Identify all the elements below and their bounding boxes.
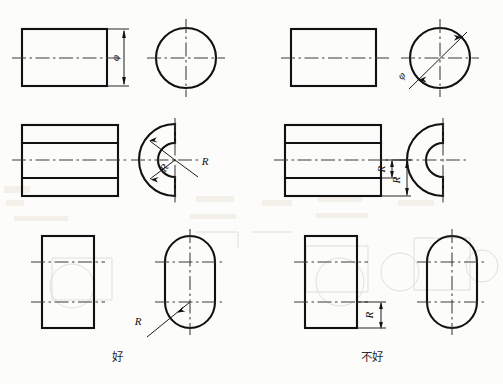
obround-bad-front-rect — [305, 236, 357, 328]
obround-good-radius-leader — [147, 302, 190, 337]
background-artifacts — [4, 186, 498, 308]
drawing-canvas: φ φ — [0, 0, 503, 384]
cylinder-good-diameter-label: φ — [109, 55, 121, 61]
row-obround-good: R — [31, 229, 225, 337]
cylinder-bad-diameter-label: φ — [395, 69, 408, 82]
caption-good: 好 — [112, 350, 124, 364]
cylinder-good-arrow-bottom — [122, 77, 126, 86]
row-ring-good: R R — [12, 118, 209, 204]
ring-bad-arrow-outer-bottom — [405, 188, 409, 196]
row-cylinder-good: φ — [12, 19, 225, 97]
ring-bad-radius-label-outer: R — [390, 176, 402, 184]
engineering-drawing-figure: φ φ — [0, 0, 503, 384]
obround-good-radius-label: R — [134, 315, 142, 327]
cylinder-good-arrow-top — [122, 30, 126, 39]
caption-bad: 不好 — [361, 350, 384, 364]
ring-bad-radius-label-inner: R — [375, 165, 387, 173]
obround-good-front-rect — [42, 236, 94, 328]
obround-bad-radius-label: R — [363, 311, 375, 319]
ring-good-outer-radius-tail — [175, 160, 198, 177]
ring-bad-arrow-inner-top — [390, 160, 394, 167]
ring-good-outer-radius-label: R — [201, 155, 209, 167]
obround-bad-arrow-top — [379, 302, 383, 309]
row-cylinder-bad: φ — [281, 19, 479, 97]
row-obround-bad: R — [294, 229, 487, 335]
row-ring-bad: R R — [274, 118, 468, 204]
